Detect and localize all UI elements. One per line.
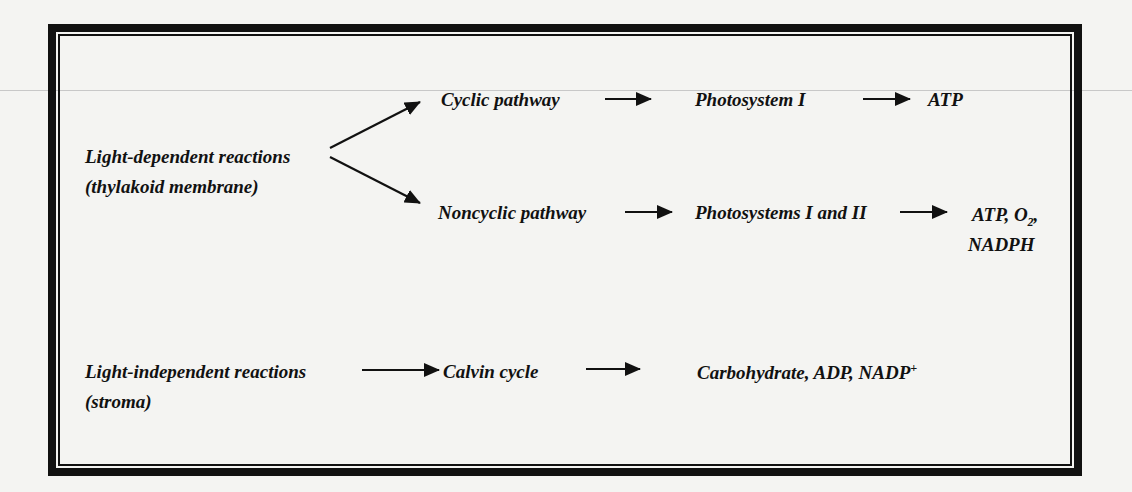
light-dependent-label: Light-dependent reactions: [85, 147, 290, 166]
calvin-products-label: Carbohydrate, ADP, NADP+: [697, 362, 917, 382]
light-independent-label: Light-independent reactions: [85, 362, 306, 381]
branch-arrow-up: [330, 102, 420, 148]
stroma-location-label: (stroma): [85, 392, 152, 411]
branch-arrow-down: [330, 157, 420, 203]
noncyclic-products-line1: ATP, O2,: [972, 205, 1038, 228]
photosystem-i-label: Photosystem I: [695, 90, 805, 109]
cyclic-pathway-label: Cyclic pathway: [441, 90, 560, 109]
calvin-cycle-label: Calvin cycle: [443, 362, 539, 381]
cyclic-products-label: ATP: [928, 90, 963, 109]
photosystems-i-ii-label: Photosystems I and II: [695, 203, 867, 222]
products-text: Carbohydrate, ADP, NADP: [697, 362, 910, 383]
products-text: ATP, O: [972, 204, 1028, 225]
arrows-layer: [0, 0, 1132, 492]
thylakoid-location-label: (thylakoid membrane): [85, 177, 259, 196]
comma: ,: [1034, 204, 1039, 225]
noncyclic-products-line2: NADPH: [968, 235, 1035, 254]
noncyclic-pathway-label: Noncyclic pathway: [438, 203, 586, 222]
superscript-plus: +: [910, 361, 917, 375]
